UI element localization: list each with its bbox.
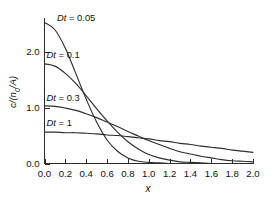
x-tick-label: 1.2	[163, 168, 176, 179]
annotation-symbol: Dt	[47, 92, 57, 103]
x-tick-label: 2.0	[246, 168, 259, 179]
x-tick-label: 0.4	[80, 168, 94, 179]
annotation-symbol: Dt	[47, 117, 57, 128]
y-axis-title: c/(n0/A)	[7, 76, 21, 108]
x-tick-label: 0.2	[59, 168, 72, 179]
y-axis-tick-labels: 0.01.02.0	[26, 46, 39, 169]
y-title-part: c/(n	[7, 92, 18, 108]
y-title-part: /A)	[7, 76, 18, 89]
y-tick-label: 1.0	[26, 102, 39, 113]
x-tick-label: 0.6	[100, 168, 113, 179]
annotation-symbol: Dt	[57, 12, 67, 23]
annotation-value: = 0.05	[66, 12, 95, 23]
x-tick-label: 0.8	[121, 168, 134, 179]
diffusion-line-chart: 0.00.20.40.60.81.01.21.41.61.82.0 0.01.0…	[0, 0, 272, 200]
annotation-symbol: Dt	[47, 49, 57, 60]
curve-annotations-group: Dt = 0.05Dt = 0.1Dt = 0.3Dt = 1	[47, 12, 96, 128]
y-axis-ticks	[45, 53, 50, 165]
curve-annotation-1: Dt = 0.1	[47, 49, 80, 60]
curve-annotation-3: Dt = 1	[47, 117, 72, 128]
chart-figure: 0.00.20.40.60.81.01.21.41.61.82.0 0.01.0…	[0, 0, 272, 200]
x-axis-title: x	[145, 183, 152, 194]
annotation-value: = 0.1	[56, 49, 80, 60]
x-tick-label: 1.6	[205, 168, 218, 179]
curve-dt-1	[45, 132, 254, 152]
x-tick-label: 1.8	[225, 168, 238, 179]
curve-dt-0.3	[45, 106, 254, 162]
curve-annotation-2: Dt = 0.3	[47, 92, 80, 103]
x-tick-label: 0.0	[38, 168, 51, 179]
x-tick-label: 1.4	[184, 168, 198, 179]
y-tick-label: 2.0	[26, 46, 39, 57]
annotation-value: = 0.3	[56, 92, 80, 103]
y-tick-label: 0.0	[26, 158, 39, 169]
curve-annotation-0: Dt = 0.05	[57, 12, 95, 23]
x-axis-tick-labels: 0.00.20.40.60.81.01.21.41.61.82.0	[38, 168, 260, 179]
annotation-value: = 1	[56, 117, 72, 128]
x-tick-label: 1.0	[142, 168, 155, 179]
